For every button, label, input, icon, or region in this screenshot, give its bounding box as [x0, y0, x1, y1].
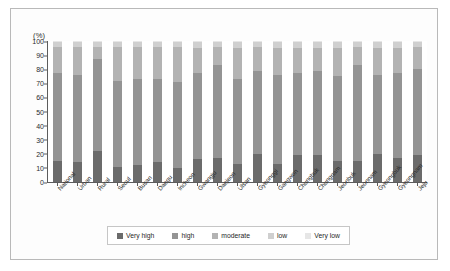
bar-segment — [293, 73, 302, 155]
bar-column[interactable] — [128, 41, 148, 182]
chart-legend: Very highhighmoderatelowVery low — [107, 226, 350, 245]
stacked-bar[interactable] — [193, 41, 202, 182]
bar-segment — [133, 47, 142, 79]
stacked-bar[interactable] — [333, 41, 342, 182]
x-label-slot: Gyeongnam — [387, 186, 407, 226]
legend-item[interactable]: moderate — [212, 232, 250, 239]
stacked-bar[interactable] — [413, 41, 422, 182]
bar-column[interactable] — [248, 41, 268, 182]
bar-segment — [93, 47, 102, 60]
x-label-slot: National — [47, 186, 67, 226]
plot-area: 0102030405060708090100 — [47, 41, 427, 183]
legend-item[interactable]: Very low — [305, 232, 340, 239]
stacked-bar[interactable] — [173, 41, 182, 182]
stacked-bar[interactable] — [73, 41, 82, 182]
stacked-bar[interactable] — [93, 41, 102, 182]
stacked-bar[interactable] — [353, 41, 362, 182]
bar-column[interactable] — [168, 41, 188, 182]
bar-segment — [153, 47, 162, 79]
legend-item[interactable]: high — [172, 232, 194, 239]
stacked-bar[interactable] — [153, 41, 162, 182]
y-axis-tick-label: 80 — [18, 66, 48, 73]
bar-column[interactable] — [287, 41, 307, 182]
bar-segment — [153, 79, 162, 162]
x-label-slot: Incheon — [167, 186, 187, 226]
y-axis-tick-label: 90 — [18, 52, 48, 59]
stacked-bar[interactable] — [233, 41, 242, 182]
x-label-slot: Jeonnam — [347, 186, 367, 226]
bar-segment — [193, 159, 202, 182]
bar-segment — [173, 47, 182, 82]
bar-segment — [293, 48, 302, 73]
stacked-bar[interactable] — [113, 41, 122, 182]
stacked-bar[interactable] — [293, 41, 302, 182]
bar-segment — [333, 76, 342, 161]
bar-segment — [413, 47, 422, 70]
bar-column[interactable] — [387, 41, 407, 182]
y-axis-tickmark — [44, 97, 47, 98]
y-axis-tickmark — [44, 154, 47, 155]
bar-column[interactable] — [327, 41, 347, 182]
legend-color-swatch — [268, 233, 274, 239]
bar-segment — [53, 161, 62, 182]
stacked-bar[interactable] — [393, 41, 402, 182]
bar-column[interactable] — [307, 41, 327, 182]
x-label-slot: Gyeonggi — [247, 186, 267, 226]
legend-item[interactable]: Very high — [117, 232, 154, 239]
bar-segment — [253, 47, 262, 71]
stacked-bar[interactable] — [133, 41, 142, 182]
chart-figure: (%) 0102030405060708090100 NationalUrban… — [10, 8, 438, 260]
y-axis-tick-label: 50 — [18, 108, 48, 115]
x-label-slot: Urban — [67, 186, 87, 226]
stacked-bar[interactable] — [53, 41, 62, 182]
stacked-bar[interactable] — [253, 41, 262, 182]
x-label-slot: Ulsan — [227, 186, 247, 226]
bar-segment — [353, 47, 362, 65]
bar-segment — [213, 65, 222, 158]
legend-color-swatch — [305, 233, 311, 239]
bar-segment — [113, 47, 122, 81]
y-axis-tickmark — [44, 55, 47, 56]
bar-segment — [93, 59, 102, 151]
bar-column[interactable] — [68, 41, 88, 182]
y-axis-tickmark — [44, 69, 47, 70]
bar-column[interactable] — [228, 41, 248, 182]
bar-column[interactable] — [108, 41, 128, 182]
bar-segment — [133, 79, 142, 165]
y-axis-tick-label: 10 — [18, 164, 48, 171]
y-axis-tick-label: 60 — [18, 94, 48, 101]
bar-segment — [253, 154, 262, 182]
x-label-slot: Seoul — [107, 186, 127, 226]
bar-group — [48, 41, 427, 182]
bar-column[interactable] — [48, 41, 68, 182]
legend-item[interactable]: low — [268, 232, 287, 239]
bar-column[interactable] — [188, 41, 208, 182]
legend-label: low — [277, 232, 287, 239]
bar-segment — [73, 75, 82, 162]
y-axis-tickmark — [44, 112, 47, 113]
stacked-bar[interactable] — [213, 41, 222, 182]
bar-column[interactable] — [88, 41, 108, 182]
stacked-bar[interactable] — [313, 41, 322, 182]
bar-column[interactable] — [367, 41, 387, 182]
bar-segment — [53, 47, 62, 74]
bar-column[interactable] — [148, 41, 168, 182]
stacked-bar[interactable] — [273, 41, 282, 182]
x-label-slot: Jeju — [407, 186, 427, 226]
bar-segment — [413, 69, 422, 155]
x-label-slot: Jeonbuk — [327, 186, 347, 226]
y-axis-tick-label: 20 — [18, 150, 48, 157]
bar-segment — [373, 75, 382, 154]
bar-segment — [273, 75, 282, 164]
bar-column[interactable] — [407, 41, 427, 182]
bar-column[interactable] — [208, 41, 228, 182]
x-label-slot: Chungbuk — [287, 186, 307, 226]
x-label-slot: Chungnam — [307, 186, 327, 226]
bar-column[interactable] — [347, 41, 367, 182]
bar-column[interactable] — [267, 41, 287, 182]
y-axis-tickmark — [44, 83, 47, 84]
y-axis-tickmark — [44, 41, 47, 42]
y-axis-tick-label: 30 — [18, 136, 48, 143]
stacked-bar[interactable] — [373, 41, 382, 182]
legend-label: Very low — [314, 232, 340, 239]
